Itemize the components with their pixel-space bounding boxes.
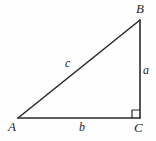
triangle-drawing xyxy=(0,0,156,141)
side-label-b: b xyxy=(79,121,85,133)
side-label-c: c xyxy=(65,57,70,69)
right-angle-marker-icon xyxy=(132,110,140,118)
vertex-label-b: B xyxy=(136,2,144,15)
vertex-label-c: C xyxy=(134,121,143,134)
side-c-hypotenuse-line xyxy=(18,20,140,118)
vertex-label-a: A xyxy=(8,120,16,133)
side-label-a: a xyxy=(143,64,149,76)
right-triangle-figure: B A C a b c xyxy=(0,0,156,141)
